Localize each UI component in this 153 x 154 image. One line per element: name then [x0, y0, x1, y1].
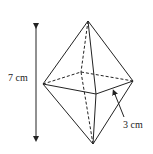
- side-pointer-arrow: [114, 92, 124, 117]
- hidden-edges: [43, 21, 133, 144]
- side-label: 3 cm: [123, 119, 143, 130]
- solid-edges: [43, 21, 133, 144]
- height-label: 7 cm: [8, 72, 28, 83]
